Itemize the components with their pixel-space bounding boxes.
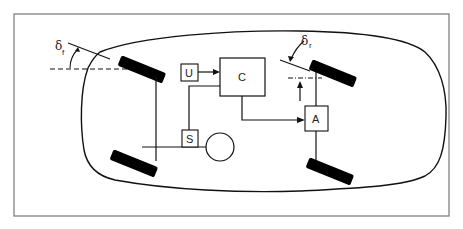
rear-angle-symbol: δ: [301, 34, 308, 48]
tire-rear-right: [305, 157, 354, 185]
rear-wheel-direction-line: [280, 60, 310, 71]
front-angle-subscript: f: [62, 48, 65, 57]
block-S-label: S: [186, 133, 193, 145]
link-C-to-A: [242, 96, 298, 120]
arrowhead-U-to-C: [213, 69, 220, 75]
block-A-label: A: [312, 113, 320, 125]
tire-rear-left: [109, 149, 158, 177]
rear-angle-arrowhead: [288, 56, 294, 62]
vehicle-control-diagram: δ f S U C A δ r: [0, 0, 463, 229]
block-U-label: U: [185, 67, 193, 79]
lateral-force-arrowhead: [297, 81, 303, 88]
front-angle-arc-arrow: [70, 49, 78, 68]
arrowhead-C-to-A: [297, 117, 305, 123]
link-S-to-C: [189, 86, 220, 130]
rear-angle-subscript: r: [309, 41, 312, 50]
block-C-label: C: [238, 71, 246, 83]
steering-wheel-circle: [206, 133, 234, 161]
